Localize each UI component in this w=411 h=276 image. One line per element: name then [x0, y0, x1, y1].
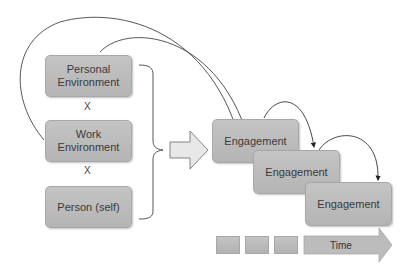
engagement-label-1: Engagement	[224, 135, 286, 148]
time-segment-2	[245, 236, 269, 254]
multiply-operator-2: X	[84, 165, 91, 176]
personal-environment-line2: Environment	[58, 76, 120, 89]
grouping-brace	[139, 65, 163, 219]
engagement-box-3: Engagement	[305, 182, 392, 226]
block-arrow	[170, 131, 208, 169]
work-environment-box: Work Environment	[45, 120, 132, 162]
time-label: Time	[330, 240, 352, 251]
personal-environment-line1: Personal	[58, 63, 120, 76]
time-segment-3	[274, 236, 298, 254]
engagement-label-3: Engagement	[317, 198, 379, 211]
multiply-operator-1: X	[84, 101, 91, 112]
personal-environment-box: Personal Environment	[45, 55, 132, 97]
work-environment-line2: Environment	[58, 141, 120, 154]
person-self-label: Person (self)	[57, 201, 119, 214]
time-segment-1	[216, 236, 240, 254]
person-self-box: Person (self)	[45, 186, 132, 228]
engagement-label-2: Engagement	[265, 166, 327, 179]
work-environment-line1: Work	[58, 128, 120, 141]
